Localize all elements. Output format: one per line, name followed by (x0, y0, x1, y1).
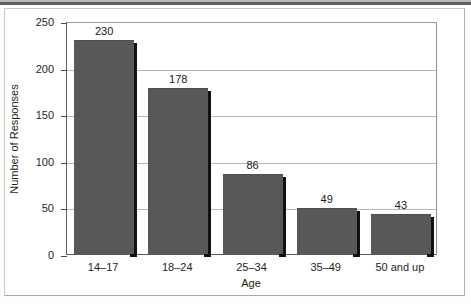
bar-rect (297, 208, 357, 254)
bar-series: 230178864943 (67, 23, 436, 254)
bar: 43 (371, 214, 431, 254)
x-axis-tick-label: 35–49 (310, 261, 341, 273)
bar-rect (148, 88, 208, 254)
bar: 49 (297, 208, 357, 254)
bar-value-label: 178 (169, 73, 187, 85)
y-axis-tick (61, 256, 67, 257)
x-axis-tick-label: 14–17 (88, 261, 119, 273)
x-axis-tick-label: 25–34 (236, 261, 267, 273)
bar: 86 (223, 174, 283, 254)
x-axis-title: Age (241, 277, 261, 289)
plot-area: 230178864943 (66, 22, 437, 255)
bar-rect (371, 214, 431, 254)
bar: 178 (148, 88, 208, 254)
y-axis-tick-label: 200 (36, 63, 54, 75)
bar: 230 (74, 40, 134, 254)
bar-chart-figure: Number of Responses 050100150200250 2301… (0, 0, 471, 304)
y-axis-tick-label: 100 (36, 156, 54, 168)
x-axis-tick-label: 50 and up (375, 261, 424, 273)
bar-rect (74, 40, 134, 254)
y-axis-tick-label: 0 (48, 249, 54, 261)
bar-value-label: 49 (321, 193, 333, 205)
y-axis-tick-label: 250 (36, 16, 54, 28)
bar-value-label: 230 (95, 25, 113, 37)
y-axis-tick-label: 150 (36, 109, 54, 121)
y-axis-tick-label: 50 (42, 202, 54, 214)
top-divider-rule (0, 2, 471, 5)
x-axis-tick-label: 18–24 (162, 261, 193, 273)
y-axis-title: Number of Responses (8, 84, 20, 193)
bar-value-label: 43 (395, 199, 407, 211)
bar-value-label: 86 (246, 159, 258, 171)
bar-rect (223, 174, 283, 254)
